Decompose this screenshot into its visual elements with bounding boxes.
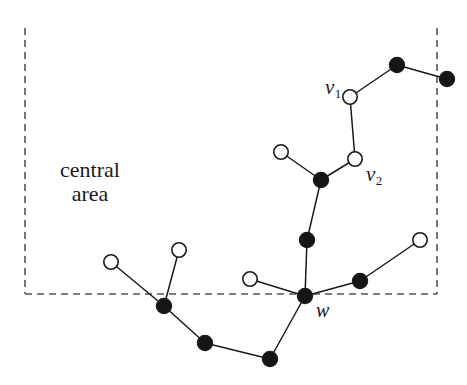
central-area-label-line1: central <box>38 158 142 182</box>
graph-edge <box>164 250 179 306</box>
graph-edge <box>350 65 397 97</box>
graph-node-filled <box>439 71 454 86</box>
graph-edge <box>305 240 307 296</box>
graph-edge <box>360 240 420 281</box>
graph-node-hollow <box>343 90 357 104</box>
graph-edge <box>164 306 205 343</box>
vertex-label-v1-subscript: 1 <box>335 86 342 101</box>
graph-node-hollow <box>172 243 186 257</box>
vertex-label-w: w <box>316 300 329 322</box>
central-area-label: central area <box>38 158 142 206</box>
graph-node-hollow <box>104 255 118 269</box>
graph-node-hollow <box>413 233 427 247</box>
graph-node-filled <box>197 335 212 350</box>
graph-edge <box>350 97 355 159</box>
graph-edge <box>307 180 321 240</box>
graph-node-filled <box>299 232 314 247</box>
vertex-label-v2: v2 <box>366 163 382 186</box>
vertex-label-v2-name: v <box>366 162 375 186</box>
graph-node-hollow <box>348 152 362 166</box>
graph-nodes <box>104 57 455 366</box>
graph-node-filled <box>352 273 367 288</box>
graph-edge <box>205 343 270 359</box>
graph-node-hollow <box>274 145 288 159</box>
graph-node-filled <box>262 351 277 366</box>
graph-node-filled <box>297 288 312 303</box>
vertex-label-v1: v1 <box>325 76 341 99</box>
graph-edges <box>111 65 447 359</box>
graph-node-hollow <box>243 272 257 286</box>
graph-edge <box>111 262 164 306</box>
figure-container: central area v1 v2 w <box>0 0 467 385</box>
graph-edge <box>270 296 305 359</box>
graph-node-filled <box>313 172 328 187</box>
vertex-label-v1-name: v <box>325 75 334 99</box>
vertex-label-v2-subscript: 2 <box>376 173 383 188</box>
central-area-label-line2: area <box>38 182 142 206</box>
graph-node-filled <box>156 298 171 313</box>
graph-node-filled <box>389 57 404 72</box>
vertex-label-w-name: w <box>316 299 329 321</box>
